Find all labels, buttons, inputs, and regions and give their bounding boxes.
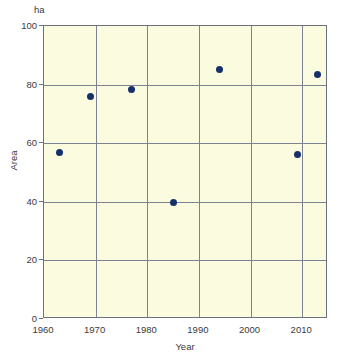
data-point bbox=[56, 149, 63, 156]
y-axis-tick-label: 20 bbox=[26, 254, 37, 265]
plot-area bbox=[43, 25, 327, 318]
x-axis-tick-label: 2000 bbox=[239, 324, 260, 335]
x-axis-tick-label: 1970 bbox=[84, 324, 105, 335]
gridline-horizontal bbox=[44, 260, 326, 261]
y-axis-tick-mark bbox=[39, 318, 43, 319]
y-axis-tick-label: 80 bbox=[26, 79, 37, 90]
data-point bbox=[314, 71, 321, 78]
x-axis-tick-label: 1960 bbox=[32, 324, 53, 335]
y-axis-tick-mark bbox=[39, 259, 43, 260]
y-axis-tick-mark bbox=[39, 201, 43, 202]
y-axis-tick-label: 100 bbox=[21, 20, 37, 31]
scatter-chart: ha Area Year 196019701980199020002010020… bbox=[0, 0, 338, 358]
gridline-horizontal bbox=[44, 85, 326, 86]
data-point bbox=[128, 86, 135, 93]
gridline-vertical bbox=[96, 26, 97, 317]
y-axis-tick-mark bbox=[39, 84, 43, 85]
y-axis-tick-label: 60 bbox=[26, 137, 37, 148]
y-axis-tick-label: 40 bbox=[26, 196, 37, 207]
plot-inner bbox=[44, 26, 326, 317]
gridline-horizontal bbox=[44, 202, 326, 203]
y-axis-unit-label: ha bbox=[34, 4, 45, 15]
gridline-vertical bbox=[147, 26, 148, 317]
x-axis-tick-label: 2010 bbox=[291, 324, 312, 335]
gridline-vertical bbox=[199, 26, 200, 317]
gridline-vertical bbox=[251, 26, 252, 317]
x-axis-title: Year bbox=[43, 341, 327, 352]
data-point bbox=[87, 93, 94, 100]
y-axis-tick-mark bbox=[39, 25, 43, 26]
data-point bbox=[294, 151, 301, 158]
gridline-vertical bbox=[302, 26, 303, 317]
gridline-horizontal bbox=[44, 143, 326, 144]
y-axis-tick-label: 0 bbox=[32, 313, 37, 324]
x-axis-tick-label: 1980 bbox=[136, 324, 157, 335]
y-axis-tick-mark bbox=[39, 142, 43, 143]
data-point bbox=[216, 66, 223, 73]
y-axis-title: Area bbox=[8, 131, 19, 191]
x-axis-tick-label: 1990 bbox=[187, 324, 208, 335]
data-point bbox=[170, 199, 177, 206]
